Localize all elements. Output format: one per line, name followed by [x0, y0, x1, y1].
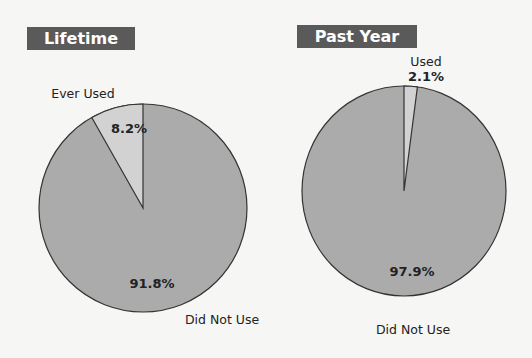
past-year-used-label: Used	[410, 54, 441, 69]
lifetime-did-not-use-pct: 91.8%	[129, 276, 174, 291]
lifetime-did-not-use-label: Did Not Use	[185, 312, 259, 327]
lifetime-ever-used-label: Ever Used	[51, 86, 114, 101]
pie-charts	[0, 0, 532, 358]
lifetime-ever-used-pct: 8.2%	[111, 121, 147, 136]
past-year-did-not-use-label: Did Not Use	[376, 322, 450, 337]
past-year-did-not-use-pct: 97.9%	[389, 264, 434, 279]
past-year-used-pct: 2.1%	[408, 69, 444, 84]
